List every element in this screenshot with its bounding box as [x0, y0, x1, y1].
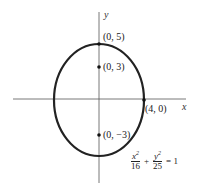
point-focus-bottom — [97, 133, 101, 137]
label-covertex-right: (4, 0) — [145, 104, 167, 114]
equals-one: = 1 — [166, 156, 178, 166]
point-vertex-top — [97, 42, 101, 46]
y-axis-label: y — [104, 10, 108, 20]
point-focus-top — [97, 65, 101, 69]
fraction-x: x2 16 — [131, 150, 140, 172]
plus-sign: + — [144, 156, 149, 166]
label-vertex-top: (0, 5) — [103, 32, 125, 42]
x-axis-label: x — [182, 102, 186, 112]
ellipse-equation: x2 16 + y2 25 = 1 — [129, 150, 180, 172]
point-covertex-right — [142, 98, 146, 102]
label-focus-bottom: (0, −3) — [103, 130, 130, 140]
fraction-y: y2 25 — [153, 150, 162, 172]
label-focus-top: (0, 3) — [103, 62, 125, 72]
